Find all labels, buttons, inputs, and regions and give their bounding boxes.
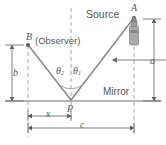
mirror-label: Mirror xyxy=(103,87,129,97)
reflection-diagram: Source A B (Observer) Mirror P θ1 θ2 a b… xyxy=(0,0,166,145)
dimension-x-label: x xyxy=(46,110,50,120)
point-a-label: A xyxy=(131,3,137,13)
theta2-subscript: 2 xyxy=(61,69,64,76)
observer-label: (Observer) xyxy=(35,36,80,46)
source-label: Source xyxy=(86,9,119,20)
dimension-b-label: b xyxy=(13,68,18,78)
theta1-subscript: 1 xyxy=(78,69,81,76)
theta2-label: θ2 xyxy=(56,66,64,76)
reflected-ray xyxy=(29,46,71,100)
flashlight-icon xyxy=(130,17,139,45)
dimension-c-label: c xyxy=(80,121,84,131)
dimension-a-label: a xyxy=(150,56,155,66)
point-b-label: B xyxy=(26,32,32,42)
point-b-dot xyxy=(26,43,30,47)
point-p-label: P xyxy=(67,104,73,114)
theta1-label: θ1 xyxy=(73,66,81,76)
